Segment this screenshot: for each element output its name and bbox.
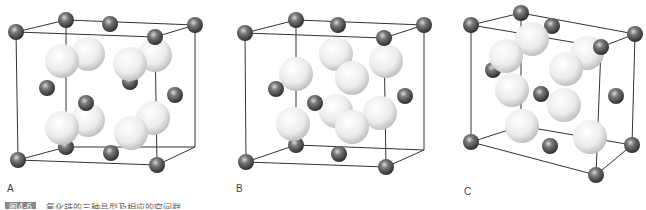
figure-caption: 图4-6 氟化锆的三种晶型及相应的空间群: [5, 201, 181, 209]
panel-label-c: C: [464, 186, 471, 197]
structure-a: [8, 12, 203, 173]
panel-label-b: B: [236, 183, 243, 194]
crystal-structures: [0, 0, 646, 209]
structure-b: [237, 12, 432, 175]
figure-number-badge: 图4-6: [5, 202, 36, 210]
caption-text: 氟化锆的三种晶型及相应的空间群: [46, 201, 181, 210]
structure-c: [463, 5, 643, 183]
panel-label-a: A: [7, 183, 14, 194]
